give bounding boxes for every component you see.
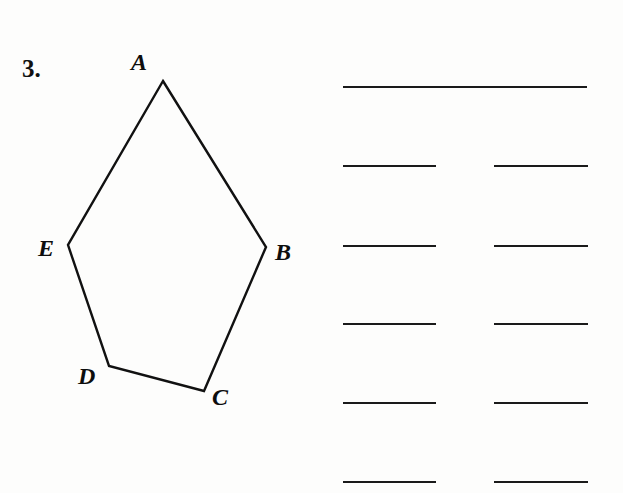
answer-blank-row2-right[interactable] — [494, 165, 588, 167]
worksheet-page: 3. ABCDE — [0, 0, 623, 493]
answer-blank-row5-right[interactable] — [494, 402, 588, 404]
answer-blank-row6-left[interactable] — [343, 481, 436, 483]
answer-blank-row5-left[interactable] — [343, 402, 436, 404]
answer-blank-row1-full[interactable] — [343, 86, 587, 88]
answer-blanks-area — [0, 0, 623, 493]
answer-blank-row4-left[interactable] — [343, 323, 436, 325]
answer-blank-row3-right[interactable] — [494, 245, 588, 247]
answer-blank-row6-right[interactable] — [494, 481, 588, 483]
answer-blank-row2-left[interactable] — [343, 165, 436, 167]
answer-blank-row4-right[interactable] — [494, 323, 588, 325]
answer-blank-row3-left[interactable] — [343, 245, 436, 247]
